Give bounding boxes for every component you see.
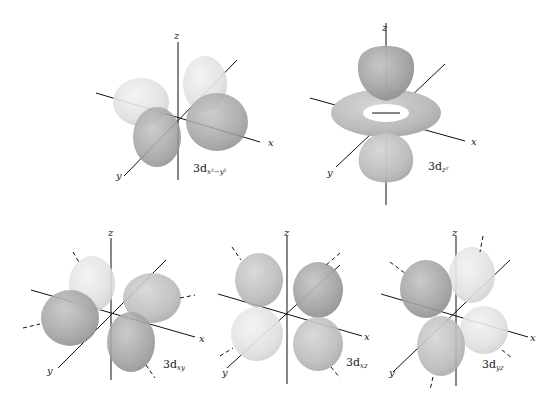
dash-mark <box>331 367 340 378</box>
orbital-dx2-y2: z x y 3dx²−y² <box>96 30 274 181</box>
orbital-name: 3dyz <box>482 358 504 372</box>
dash-mark <box>180 295 195 298</box>
orbital-dyz: z x y 3dyz <box>381 227 536 390</box>
z-label: z <box>173 30 180 41</box>
z-label: z <box>283 227 290 238</box>
lobe-lower-left <box>417 316 465 376</box>
dash-mark <box>390 262 406 274</box>
y-label: y <box>221 367 228 378</box>
z-label: z <box>451 227 458 238</box>
x-label: x <box>268 137 274 148</box>
dash-mark <box>232 247 241 260</box>
orbitals-diagram: z x y 3dx²−y² z x y 3dz² z x y 3dxy <box>0 0 557 409</box>
lobe-lower-right <box>460 306 508 354</box>
x-label: x <box>530 332 536 343</box>
lobe-front-right <box>186 93 248 151</box>
dash-mark <box>23 324 40 328</box>
lobe-upper-left <box>400 260 452 318</box>
lobe-lower-left <box>231 307 283 361</box>
orbital-name: 3dx²−y² <box>193 162 227 176</box>
x-label: x <box>364 331 370 342</box>
y-label: y <box>115 170 122 181</box>
lobe-front-right <box>107 312 155 372</box>
dash-mark <box>220 348 233 356</box>
dash-mark <box>430 377 433 390</box>
orbital-dxz: z x y 3dxz <box>218 227 370 384</box>
x-label: x <box>199 333 205 344</box>
lobe-bottom <box>359 133 414 183</box>
orbital-dxy: z x y 3dxy <box>23 227 205 380</box>
y-label: y <box>46 365 53 376</box>
orbital-name: 3dz² <box>428 160 449 174</box>
lobe-upper-left <box>235 253 283 307</box>
lobe-front-left <box>41 290 99 346</box>
x-label: x <box>471 136 477 147</box>
z-label: z <box>107 227 114 238</box>
dash-mark <box>502 350 512 358</box>
orbital-dz2: z x y 3dz² <box>310 22 477 205</box>
y-label: y <box>388 367 395 378</box>
z-label: z <box>381 22 388 33</box>
lobe-upper-right <box>449 247 495 303</box>
lobe-lower-right <box>293 317 343 371</box>
dash-mark <box>146 365 155 378</box>
lobe-upper-right <box>293 262 343 318</box>
y-label: y <box>326 167 333 178</box>
lobe-front-left <box>133 107 181 167</box>
dash-mark <box>325 253 340 266</box>
orbital-name: 3dxz <box>346 356 368 370</box>
orbital-name: 3dxy <box>163 358 186 372</box>
